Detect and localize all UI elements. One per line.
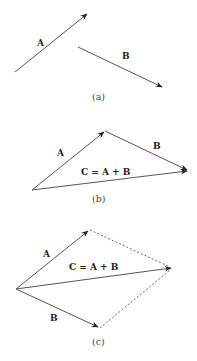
vector-a bbox=[15, 14, 87, 72]
label-c: C = A + B bbox=[69, 262, 119, 272]
panel-c: A B C = A + B (c) bbox=[16, 230, 171, 347]
label-b: B bbox=[50, 313, 58, 323]
caption-a: (a) bbox=[92, 91, 105, 102]
label-a: A bbox=[56, 148, 65, 158]
vector-b bbox=[78, 47, 162, 87]
label-b: B bbox=[122, 51, 130, 61]
panel-a: A B (a) bbox=[15, 14, 162, 102]
label-b: B bbox=[153, 141, 161, 151]
vector-a bbox=[32, 132, 104, 190]
panel-b: A B C = A + B (b) bbox=[32, 131, 187, 204]
dashed-a-translated bbox=[100, 270, 170, 328]
label-c: C = A + B bbox=[81, 167, 131, 177]
caption-b: (b) bbox=[92, 193, 106, 204]
vector-b bbox=[105, 131, 187, 170]
label-a: A bbox=[36, 38, 45, 48]
caption-c: (c) bbox=[92, 336, 105, 347]
label-a: A bbox=[42, 249, 51, 259]
vector-addition-diagram: A B (a) A B C = A + B (b) A B C = A + B … bbox=[0, 0, 197, 361]
